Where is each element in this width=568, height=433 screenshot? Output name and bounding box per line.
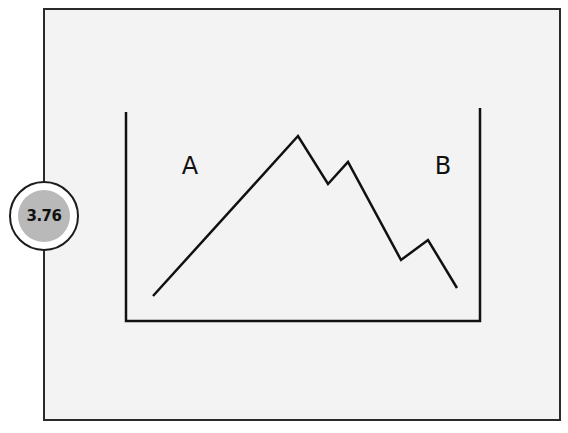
diagram-canvas xyxy=(0,0,568,433)
zigzag-line xyxy=(153,136,457,296)
badge-value: 3.76 xyxy=(18,190,70,242)
label-b: B xyxy=(435,154,451,178)
figure-stage: A B 3.76 xyxy=(0,0,568,433)
label-a: A xyxy=(182,154,198,178)
value-badge: 3.76 xyxy=(9,181,79,251)
container-outline xyxy=(126,108,480,321)
